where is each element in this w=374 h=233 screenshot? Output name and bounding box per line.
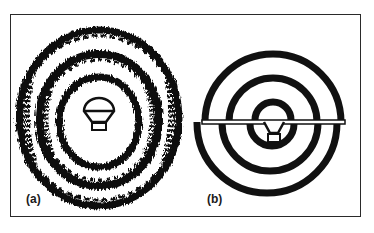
light-bulb-icon (84, 98, 114, 130)
light-bulb-icon (264, 122, 284, 142)
panel-label-a: (a) (26, 192, 41, 206)
figure-artwork (0, 0, 374, 233)
panel-label-b: (b) (207, 192, 222, 206)
